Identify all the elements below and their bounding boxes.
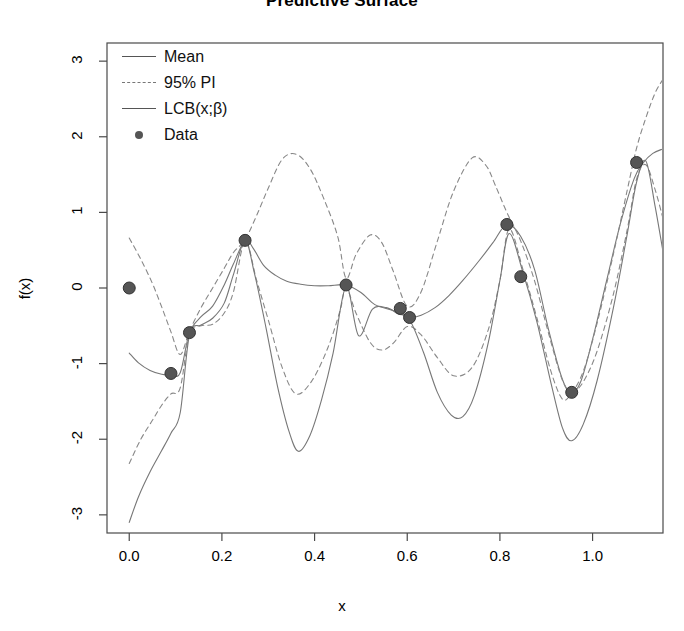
y-tick-label: 3	[68, 45, 85, 75]
legend-item-data: Data	[118, 122, 278, 148]
x-tick-label: 1.0	[582, 547, 603, 564]
data-point	[404, 311, 416, 323]
x-tick-label: 0.8	[489, 547, 510, 564]
y-tick-label: -2	[68, 423, 85, 453]
legend-label-lcb: LCB(x;β)	[164, 101, 227, 117]
y-tick-label: 1	[68, 196, 85, 226]
y-axis-label: f(x)	[16, 249, 33, 329]
x-tick-label: 0.6	[397, 547, 418, 564]
plot-area	[0, 0, 684, 631]
data-point	[165, 367, 177, 379]
legend-label-mean: Mean	[164, 49, 204, 65]
legend-key-lcb	[118, 96, 164, 122]
data-point	[631, 156, 643, 168]
series-line-2	[129, 164, 663, 463]
chart-legend: Mean 95% PI LCB(x;β) Data	[118, 44, 278, 148]
data-point	[394, 302, 406, 314]
series-line-0	[129, 149, 663, 393]
data-point	[515, 271, 527, 283]
chart-figure: Predictive Surface Mean 95% PI LCB(x;β) …	[0, 0, 684, 631]
y-tick-label: 0	[68, 272, 85, 302]
legend-item-pi: 95% PI	[118, 70, 278, 96]
x-tick-label: 0.0	[119, 547, 140, 564]
legend-label-pi: 95% PI	[164, 75, 216, 91]
legend-item-lcb: LCB(x;β)	[118, 96, 278, 122]
legend-key-pi	[118, 70, 164, 96]
data-point	[566, 386, 578, 398]
data-point	[123, 282, 135, 294]
legend-key-data	[118, 122, 164, 148]
y-tick-label: -1	[68, 347, 85, 377]
data-point	[340, 279, 352, 291]
y-tick-label: 2	[68, 120, 85, 150]
x-tick-label: 0.4	[304, 547, 325, 564]
x-tick-label: 0.2	[211, 547, 232, 564]
x-axis-label: x	[0, 597, 684, 614]
data-point	[239, 234, 251, 246]
legend-label-data: Data	[164, 127, 198, 143]
data-point	[183, 327, 195, 339]
legend-key-mean	[118, 44, 164, 70]
series-line-3	[129, 160, 663, 522]
legend-item-mean: Mean	[118, 44, 278, 70]
data-point	[501, 218, 513, 230]
y-tick-label: -3	[68, 498, 85, 528]
